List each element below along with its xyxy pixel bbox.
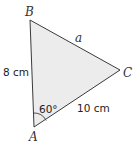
side-label-ab: 8 cm xyxy=(3,66,29,78)
side-label-ac: 10 cm xyxy=(77,102,110,114)
vertex-label-c: C xyxy=(123,66,132,80)
triangle-diagram: B C A a 8 cm 10 cm 60° xyxy=(0,0,139,146)
vertex-label-b: B xyxy=(24,5,34,19)
vertex-label-a: A xyxy=(28,130,38,144)
side-label-bc: a xyxy=(75,31,82,45)
angle-label-a: 60° xyxy=(39,103,58,115)
